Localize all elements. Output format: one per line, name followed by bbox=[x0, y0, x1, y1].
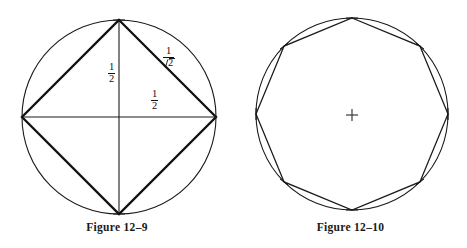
figure-12-9-drawing bbox=[0, 0, 234, 248]
radical-icon: 2 bbox=[164, 58, 173, 69]
side-label-denominator: 2 bbox=[163, 58, 174, 69]
figure-panel-12-9: 1 2 1 2 1 2 Figure 12–9 bbox=[0, 0, 234, 248]
center-cross-icon bbox=[346, 109, 358, 121]
radius-label-horizontal-numerator: 1 bbox=[151, 89, 158, 101]
figure-12-10-caption: Figure 12–10 bbox=[234, 221, 467, 233]
radius-label-horizontal: 1 2 bbox=[151, 89, 158, 111]
figure-sheet: 1 2 1 2 1 2 Figure 12–9 bbox=[0, 0, 467, 248]
figure-panel-12-10: Figure 12–10 bbox=[234, 0, 467, 248]
figure-12-10-drawing bbox=[234, 0, 467, 248]
radius-label-vertical-numerator: 1 bbox=[108, 62, 115, 74]
radius-label-horizontal-denominator: 2 bbox=[151, 101, 158, 112]
side-label: 1 2 bbox=[163, 46, 174, 68]
figure-12-9-caption: Figure 12–9 bbox=[0, 221, 234, 233]
radius-label-vertical: 1 2 bbox=[108, 62, 115, 84]
radical-hook-icon bbox=[164, 59, 169, 68]
radius-label-vertical-denominator: 2 bbox=[108, 74, 115, 85]
